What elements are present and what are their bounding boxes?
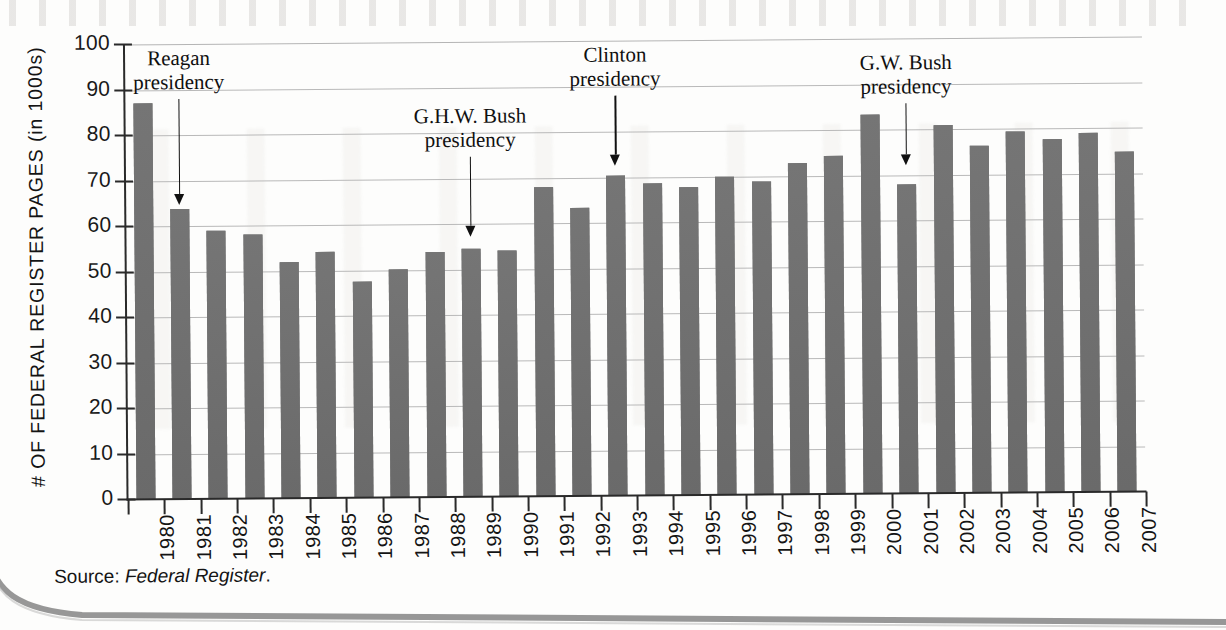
x-tick-label-1989: 1989 <box>483 511 506 558</box>
bar-2006 <box>1079 133 1101 492</box>
bar-1993 <box>606 175 628 495</box>
bar-1989 <box>461 249 482 497</box>
x-tick-mark-1997 <box>746 495 748 510</box>
gridline-30 <box>126 355 1144 364</box>
y-tick-label-80: 80 <box>55 122 111 146</box>
annotation-1989: G.H.W. Bushpresidency <box>370 104 570 153</box>
y-tick-label-70: 70 <box>55 167 111 191</box>
x-tick-mark-1995 <box>673 495 675 510</box>
y-tick-mark-20 <box>117 407 135 409</box>
annotation-line-2: presidency <box>370 127 570 152</box>
x-tick-label-2003: 2003 <box>992 507 1015 554</box>
annotation-line-2: presidency <box>79 70 279 95</box>
x-tick-label-1990: 1990 <box>519 511 542 558</box>
annotation-line-1: Clinton <box>515 43 715 68</box>
bar-1996 <box>715 176 737 495</box>
x-tick-mark-2003 <box>964 493 966 508</box>
gridline-50 <box>126 264 1144 273</box>
bar-1992 <box>570 208 591 496</box>
x-tick-mark-1984 <box>273 498 275 513</box>
x-tick-mark-1994 <box>637 495 639 510</box>
x-tick-label-2002: 2002 <box>956 508 979 555</box>
plot-area <box>124 36 1146 499</box>
annotation-label: G.H.W. Bushpresidency <box>370 104 570 153</box>
y-axis-title: # OF FEDERAL REGISTER PAGES (in 1000s) <box>23 32 50 502</box>
bar-1991 <box>534 187 555 497</box>
y-tick-label-20: 20 <box>57 395 113 419</box>
x-tick-label-1985: 1985 <box>338 513 361 560</box>
x-tick-mark-1981 <box>164 499 166 514</box>
bar-2000 <box>860 115 882 494</box>
x-tick-mark-2000 <box>855 494 857 509</box>
x-tick-label-1988: 1988 <box>447 512 470 559</box>
x-tick-mark-1990 <box>491 497 493 512</box>
x-tick-mark-1992 <box>564 496 566 511</box>
gridline-40 <box>126 309 1144 318</box>
x-tick-label-2007: 2007 <box>1137 506 1160 553</box>
y-tick-mark-70 <box>115 180 133 182</box>
bar-1986 <box>353 281 374 497</box>
x-tick-label-1995: 1995 <box>701 510 724 557</box>
y-tick-mark-0 <box>118 498 136 500</box>
x-tick-mark-end <box>1145 491 1147 506</box>
annotation-1981: Reaganpresidency <box>79 46 279 95</box>
x-tick-label-1999: 1999 <box>847 509 870 556</box>
y-tick-label-0: 0 <box>57 486 113 510</box>
bar-1994 <box>643 184 664 496</box>
x-tick-label-1984: 1984 <box>301 513 324 560</box>
x-tick-mark-2001 <box>891 493 893 508</box>
annotation-line-2: presidency <box>806 74 1006 99</box>
x-tick-mark-1983 <box>237 499 239 514</box>
x-tick-label-1998: 1998 <box>810 509 833 556</box>
gridline-20 <box>127 400 1145 409</box>
x-tick-mark-2007 <box>1109 492 1111 507</box>
x-tick-label-1983: 1983 <box>265 513 288 560</box>
x-tick-label-1987: 1987 <box>410 512 433 559</box>
bar-1995 <box>679 186 700 495</box>
x-tick-mark-1980 <box>128 499 130 514</box>
x-tick-label-2000: 2000 <box>883 508 906 555</box>
x-tick-mark-1996 <box>709 495 711 510</box>
x-tick-label-1982: 1982 <box>229 513 252 560</box>
x-tick-label-1997: 1997 <box>774 509 797 556</box>
bar-1998 <box>788 163 810 494</box>
x-tick-mark-1989 <box>455 497 457 512</box>
y-tick-mark-80 <box>115 134 133 136</box>
x-tick-mark-1993 <box>600 496 602 511</box>
y-tick-mark-40 <box>116 316 134 318</box>
y-tick-mark-30 <box>116 362 134 364</box>
annotation-line-1: G.H.W. Bush <box>370 104 570 129</box>
annotation-2001: G.W. Bushpresidency <box>806 51 1006 100</box>
annotation-label: G.W. Bushpresidency <box>806 51 1006 100</box>
y-tick-mark-10 <box>117 453 135 455</box>
bar-2001 <box>897 184 918 494</box>
y-tick-label-50: 50 <box>56 258 112 282</box>
bar-1980 <box>133 103 155 499</box>
y-tick-label-30: 30 <box>56 349 112 373</box>
y-tick-label-40: 40 <box>56 304 112 328</box>
y-tick-mark-60 <box>115 225 133 227</box>
x-tick-label-1992: 1992 <box>592 511 615 558</box>
bar-1999 <box>824 156 846 494</box>
bar-1990 <box>498 251 519 497</box>
bar-1984 <box>280 262 301 498</box>
annotation-arrowhead-icon <box>174 194 184 205</box>
bar-2003 <box>970 146 992 493</box>
y-tick-mark-50 <box>116 271 134 273</box>
annotation-label: Reaganpresidency <box>79 46 279 95</box>
source-note: Source: Federal Register. <box>54 564 271 588</box>
gridline-70 <box>125 173 1143 182</box>
source-prefix: Source: <box>54 565 125 587</box>
x-tick-mark-1988 <box>418 497 420 512</box>
x-tick-label-1981: 1981 <box>192 514 215 561</box>
gridline-80 <box>125 127 1143 136</box>
x-tick-mark-1982 <box>200 499 202 514</box>
x-tick-mark-2002 <box>927 493 929 508</box>
gridline-60 <box>125 218 1143 227</box>
x-tick-mark-2006 <box>1073 492 1075 507</box>
x-tick-mark-1998 <box>782 494 784 509</box>
x-tick-mark-2005 <box>1036 492 1038 507</box>
x-tick-label-1991: 1991 <box>556 511 579 558</box>
x-tick-label-1986: 1986 <box>374 512 397 559</box>
bar-1988 <box>425 252 446 497</box>
